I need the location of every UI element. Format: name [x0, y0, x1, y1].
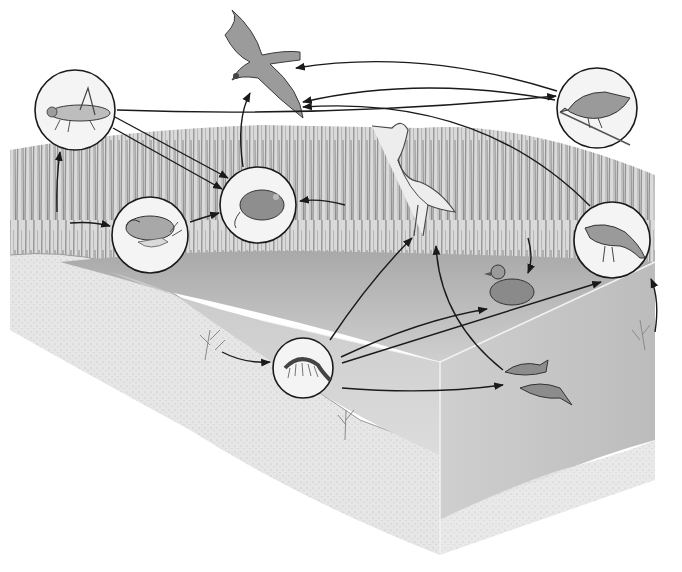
snail-node [112, 197, 188, 273]
food-web-diagram [0, 0, 682, 572]
arrow-grasshopper-to-songbird [117, 96, 556, 112]
grasshopper-node [35, 70, 115, 150]
marsh-reeds [10, 125, 655, 262]
arrow-songbird-to-hawk [296, 62, 557, 91]
amphipod-node [273, 338, 333, 398]
hawk-illustration [225, 10, 303, 118]
songbird-node [557, 68, 637, 148]
mouse-node [220, 167, 296, 243]
sandpiper-node [574, 202, 650, 278]
